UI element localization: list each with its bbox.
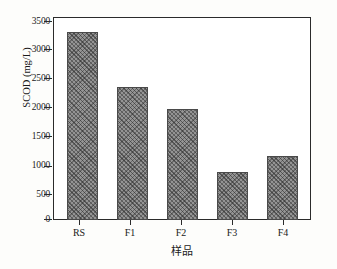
y-axis-tick [44, 136, 52, 137]
x-axis-tick [283, 220, 284, 225]
x-axis-tick [181, 220, 182, 225]
bar-series-scod [53, 17, 311, 220]
x-axis-title: 样品 [53, 242, 311, 258]
y-axis-title: SCOD (mg/L) [21, 0, 32, 158]
x-axis-tick [130, 220, 131, 225]
bar-f4 [267, 156, 298, 220]
x-axis-tick [79, 220, 80, 225]
x-tick-label-f2: F2 [158, 227, 204, 238]
y-axis-tick [44, 194, 52, 195]
bar-rs [67, 32, 98, 220]
y-axis-tick [44, 49, 52, 50]
x-tick-label-f1: F1 [107, 227, 153, 238]
chart-figure: 3500 3000 2500 2000 1500 1000 500 0 [0, 0, 337, 269]
y-axis-tick [44, 78, 52, 79]
x-tick-label-f3: F3 [209, 227, 255, 238]
bar-f1 [117, 87, 148, 220]
y-axis-tick [44, 219, 52, 220]
x-axis-tick [232, 220, 233, 225]
x-tick-label-rs: RS [56, 227, 102, 238]
bar-f2 [167, 109, 198, 220]
y-axis-tick [44, 107, 52, 108]
y-axis-tick [44, 166, 52, 167]
bar-f3 [217, 172, 248, 220]
y-axis-tick [44, 21, 52, 22]
x-tick-label-f4: F4 [260, 227, 306, 238]
